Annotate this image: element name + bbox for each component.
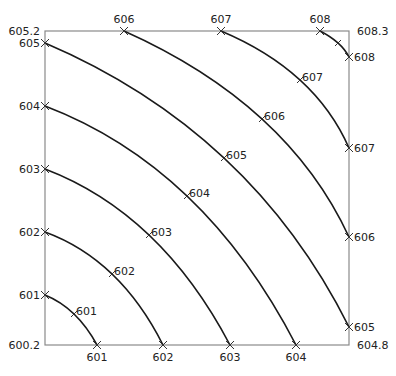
edge-label-left-601: 601 [19,289,40,302]
edge-label-top-607: 607 [211,13,232,26]
edge-label-right-606: 606 [354,231,375,244]
corner-value-top-left: 605.2 [9,25,41,38]
corner-value-bottom-right: 604.8 [357,339,389,352]
contour-label-601: 601 [76,305,97,318]
contour-label-605: 605 [226,149,247,162]
contour-line-601 [45,295,97,345]
corner-value-top-right: 608.3 [357,25,389,38]
edge-label-right-605: 605 [354,321,375,334]
contour-line-605 [45,43,349,327]
edge-label-bottom-603: 603 [220,351,241,364]
contour-line-607 [221,31,349,148]
contour-label-603: 603 [151,226,172,239]
edge-label-left-603: 603 [19,163,40,176]
contour-label-607: 607 [302,71,323,84]
edge-label-left-602: 602 [19,226,40,239]
edge-label-top-606: 606 [114,13,135,26]
edge-label-right-608: 608 [354,51,375,64]
contour-line-606 [124,31,349,237]
edge-label-bottom-604: 604 [286,351,307,364]
edge-label-left-604: 604 [19,100,40,113]
contour-label-606: 606 [264,110,285,123]
contour-line-608 [320,31,349,57]
edge-label-bottom-602: 602 [153,351,174,364]
corner-value-bottom-left: 600.2 [9,339,41,352]
edge-label-right-607: 607 [354,142,375,155]
contour-label-604: 604 [189,187,210,200]
edge-label-left-605: 605 [19,37,40,50]
contour-plot: 6016026036046056066076016026036046016026… [0,0,396,376]
contour-line-602 [45,232,163,345]
edge-label-bottom-601: 601 [87,351,108,364]
edge-label-top-608: 608 [310,13,331,26]
contour-label-602: 602 [114,265,135,278]
